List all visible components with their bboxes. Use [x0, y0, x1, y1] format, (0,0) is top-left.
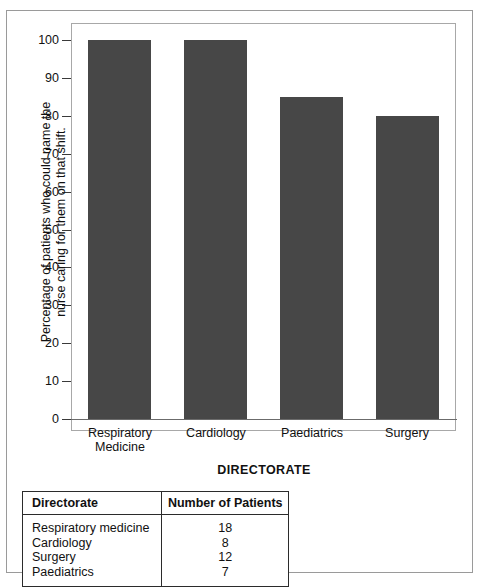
bar-surgery[interactable]: [376, 116, 439, 419]
bar-chart: 1009080706050403020100 Percentage of pat…: [7, 11, 474, 481]
x-category-label-paediatrics: Paediatrics: [264, 426, 360, 440]
x-category-label-surgery: Surgery: [359, 426, 455, 440]
y-axis-title-line-2: nurse caring for them on that shift.: [54, 127, 68, 317]
table-cell-patients: 12: [162, 550, 288, 565]
table-cell-directorate: Cardiology: [23, 536, 162, 551]
x-axis-line: [71, 419, 457, 420]
table-header-directorate: Directorate: [23, 492, 162, 515]
table-header-number-of-patients: Number of Patients: [162, 492, 288, 515]
bar-paediatrics[interactable]: [280, 97, 343, 419]
x-category-label-line-2: Medicine: [72, 440, 168, 454]
table-row: Surgery12: [23, 550, 288, 565]
y-axis-title: Percentage of patients who could name th…: [39, 27, 69, 417]
x-axis-title: DIRECTORATE: [71, 463, 457, 477]
x-category-label-line-1: Surgery: [359, 426, 455, 440]
table-cell-patients: 7: [162, 565, 288, 587]
table-cell-directorate: Respiratory medicine: [23, 515, 162, 536]
x-category-label-respiratory-medicine: RespiratoryMedicine: [72, 426, 168, 454]
table-body: Respiratory medicine18Cardiology8Surgery…: [23, 515, 288, 587]
x-category-label-line-1: Respiratory: [72, 426, 168, 440]
table-cell-patients: 18: [162, 515, 288, 536]
table-row: Paediatrics7: [23, 565, 288, 587]
table-cell-directorate: Paediatrics: [23, 565, 162, 587]
table-row: Cardiology8: [23, 536, 288, 551]
bar-respiratory-medicine[interactable]: [88, 40, 151, 419]
table-cell-directorate: Surgery: [23, 550, 162, 565]
table-cell-patients: 8: [162, 536, 288, 551]
y-tick-0: [62, 419, 71, 420]
x-category-label-line-1: Cardiology: [168, 426, 264, 440]
table-row: Respiratory medicine18: [23, 515, 288, 536]
figure-frame: 1009080706050403020100 Percentage of pat…: [6, 10, 473, 573]
y-axis-title-line-1: Percentage of patients who could name th…: [39, 102, 53, 342]
plot-area: [72, 40, 455, 419]
table-header-row: Directorate Number of Patients: [23, 492, 288, 515]
x-category-label-line-1: Paediatrics: [264, 426, 360, 440]
bar-cardiology[interactable]: [184, 40, 247, 419]
data-table: Directorate Number of Patients Respirato…: [22, 491, 289, 587]
x-category-label-cardiology: Cardiology: [168, 426, 264, 440]
